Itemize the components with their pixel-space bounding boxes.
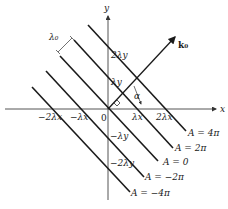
phase-label-0: A = 0	[162, 157, 189, 167]
phase-label-2pi: A = 2π	[174, 143, 207, 153]
y-tick-neg2: −2λy	[110, 158, 135, 168]
wavelength-label: λ₀	[48, 32, 59, 42]
y-tick-2: 2λy	[110, 50, 128, 60]
angle-alpha-label: α	[134, 91, 140, 101]
y-tick-neg1: −λy	[110, 131, 129, 141]
origin-label: 0	[101, 113, 107, 123]
y-tick-1: λy	[110, 77, 123, 87]
phase-label-neg4pi: A = −4π	[130, 188, 171, 198]
wave-vector-label: k₀	[178, 40, 188, 50]
phase-label-4pi: A = 4π	[187, 128, 220, 138]
x-tick-1: λx	[131, 112, 143, 122]
wave-vector-arrow	[108, 37, 175, 109]
phase-label-neg2pi: A = −2π	[144, 172, 185, 182]
wavelength-indicator	[58, 38, 72, 52]
wavefront-diagram: x y 0 −2λx −λx λx 2λx 2λy λy −λy −2λy k₀…	[0, 0, 228, 209]
x-tick-neg2: −2λx	[38, 112, 62, 122]
x-tick-neg1: −λx	[70, 112, 88, 122]
x-tick-2: 2λx	[155, 112, 173, 122]
y-axis-label: y	[103, 3, 110, 13]
x-axis-label: x	[220, 104, 225, 114]
